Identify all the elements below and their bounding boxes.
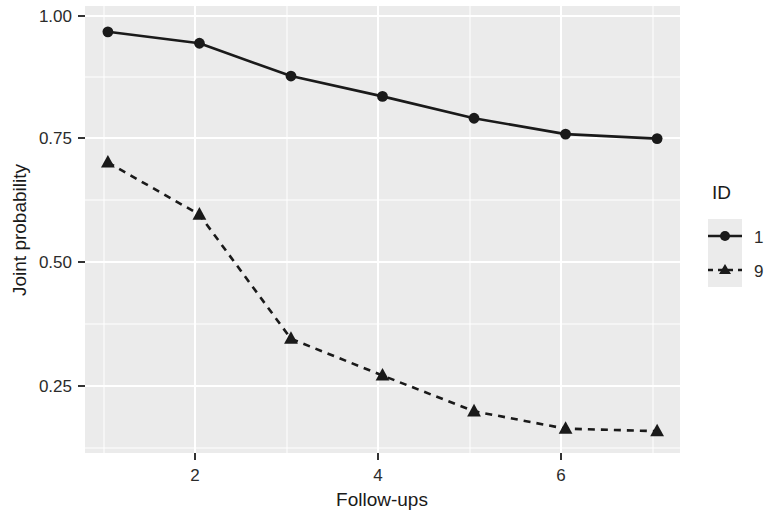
y-tick-label-0.75: 0.75	[39, 129, 72, 148]
x-tick-label-2: 2	[190, 466, 199, 485]
data-point-1-x5	[469, 113, 480, 124]
y-tick-label-1.00: 1.00	[39, 7, 72, 26]
joint-probability-line-chart: 1.00 0.75 0.50 0.25 2 4 6 Follow-ups Joi…	[0, 0, 773, 512]
legend-title: ID	[712, 182, 731, 203]
y-axis-ticks	[78, 16, 85, 386]
y-tick-label-0.50: 0.50	[39, 253, 72, 272]
legend-label-9: 9	[754, 262, 763, 281]
data-point-1-x3	[286, 71, 297, 82]
legend-entry-9[interactable]: 9	[708, 253, 763, 287]
data-point-1-x7	[652, 133, 663, 144]
legend-marker-circle	[720, 231, 730, 241]
data-point-1-x2	[194, 38, 205, 49]
data-point-1-x4	[377, 91, 388, 102]
legend-entry-1[interactable]: 1	[708, 219, 763, 253]
y-axis-title: Joint probability	[9, 163, 30, 296]
y-axis-tick-labels: 1.00 0.75 0.50 0.25	[39, 7, 72, 396]
x-axis-title: Follow-ups	[336, 489, 428, 510]
data-point-1-x6	[560, 129, 571, 140]
y-tick-label-0.25: 0.25	[39, 377, 72, 396]
x-axis-tick-labels: 2 4 6	[190, 466, 565, 485]
legend-label-1: 1	[754, 228, 763, 247]
legend: ID 1 9	[708, 182, 763, 287]
x-axis-ticks	[195, 453, 561, 460]
x-tick-label-6: 6	[556, 466, 565, 485]
data-point-1-x1	[102, 26, 113, 37]
x-tick-label-4: 4	[373, 466, 382, 485]
